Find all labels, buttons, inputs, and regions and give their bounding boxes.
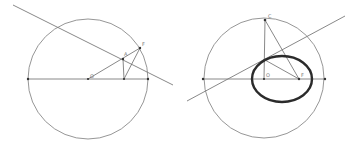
right-segment-CO (264, 20, 265, 79)
right-panel: C O F (187, 13, 345, 138)
left-perpendicular-AH (123, 59, 124, 79)
right-point-end-right (324, 78, 326, 80)
right-point-T (264, 59, 266, 61)
left-point-O (87, 78, 89, 80)
right-point-end-left (202, 78, 204, 80)
ellipse-construction-figure: O A F C O F (0, 0, 361, 144)
left-label-F: F (142, 41, 145, 47)
right-point-C (264, 19, 267, 22)
right-point-O (263, 78, 265, 80)
left-point-end-left (27, 78, 29, 80)
right-label-O: O (266, 72, 270, 78)
left-point-F (139, 47, 141, 49)
left-label-O: O (90, 73, 94, 79)
right-point-F (298, 78, 300, 80)
left-point-end-right (147, 78, 149, 80)
right-segment-CF (265, 20, 299, 79)
diagram-svg: O A F C O F (0, 0, 361, 144)
right-label-F: F (301, 72, 304, 78)
left-point-H (123, 78, 125, 80)
left-point-A (122, 58, 124, 60)
right-label-C: C (268, 13, 272, 19)
left-panel: O A F (13, 5, 173, 139)
left-label-A: A (124, 51, 128, 57)
